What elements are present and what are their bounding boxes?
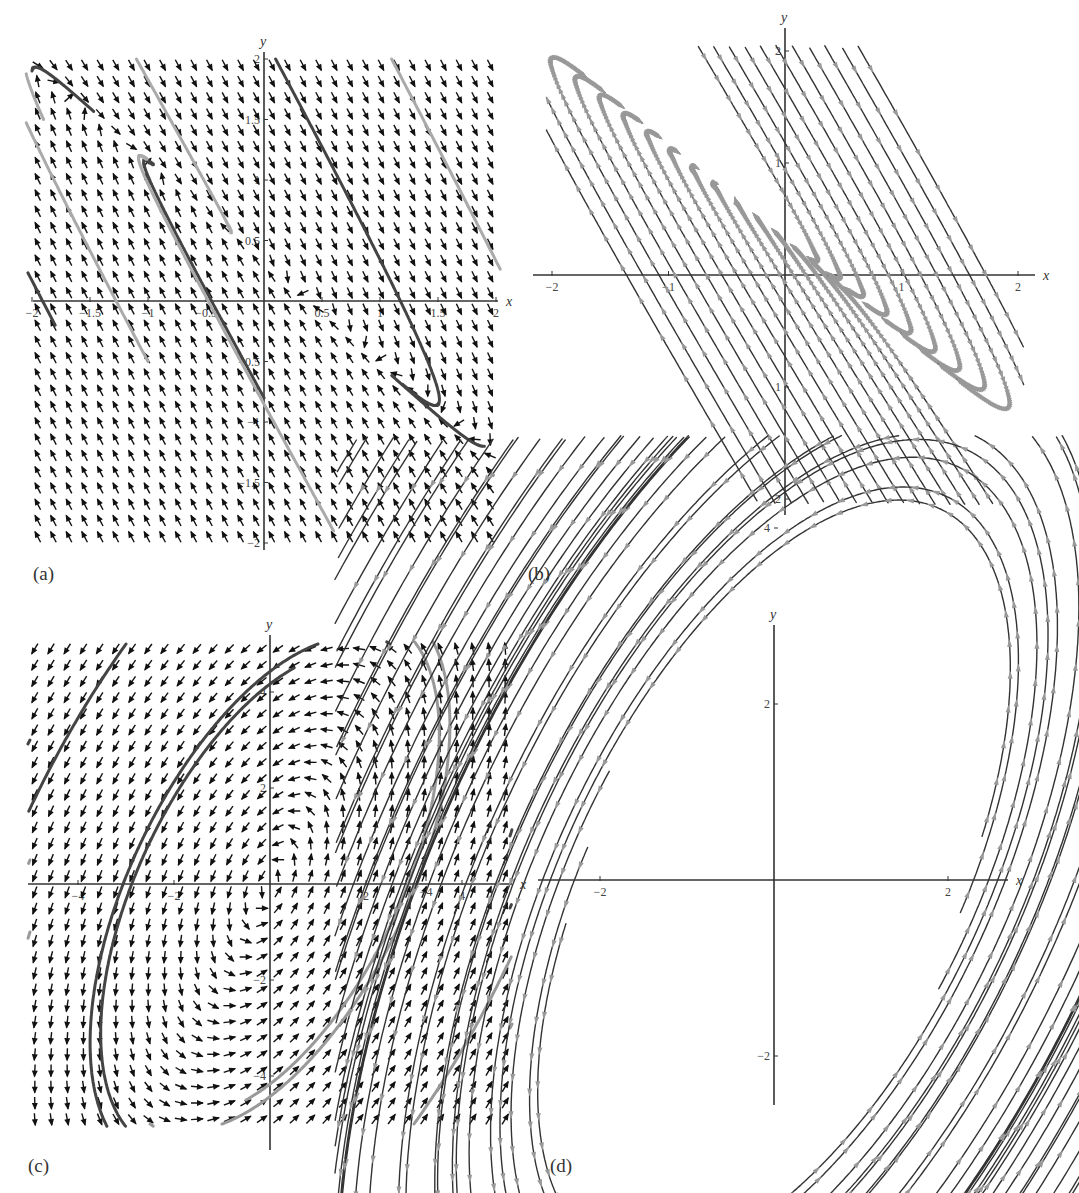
y-axis-label: y bbox=[264, 617, 273, 632]
x-tick-label: 2 bbox=[945, 885, 951, 899]
panel-b: −2−1122112xy (b) bbox=[520, 0, 1079, 590]
x-tick-label: −2 bbox=[546, 280, 559, 294]
panel-c: −4−22442−2−4xy (c) bbox=[0, 610, 530, 1193]
panel-a: −2−1.5−1−0.50.511.5221.510.5−0.5−1−1.5−2… bbox=[0, 0, 530, 590]
stream-plot-d: −4−22442−2−4xy bbox=[520, 600, 1079, 1193]
x-tick-label: 1 bbox=[899, 280, 905, 294]
y-axis-label: y bbox=[258, 34, 267, 49]
y-axis-label: y bbox=[768, 607, 777, 622]
x-tick-label: −2 bbox=[594, 885, 607, 899]
x-tick-label: 2 bbox=[493, 306, 499, 320]
y-axis-label: y bbox=[779, 10, 788, 25]
panel-d: −4−22442−2−4xy (d) bbox=[520, 600, 1079, 1193]
direction-field-plot-a: −2−1.5−1−0.50.511.5221.510.5−0.5−1−1.5−2… bbox=[0, 0, 530, 590]
x-tick-label: 2 bbox=[1015, 280, 1021, 294]
y-tick-label: 1 bbox=[775, 380, 781, 394]
axes: −2−1122112xy bbox=[533, 10, 1050, 515]
panel-label-d: (d) bbox=[550, 1155, 572, 1177]
panel-label-a: (a) bbox=[33, 563, 54, 585]
stream-plot-b: −2−1122112xy bbox=[520, 0, 1079, 590]
y-tick-label: 2 bbox=[764, 697, 770, 711]
x-axis-label: x bbox=[505, 294, 513, 309]
panel-label-c: (c) bbox=[28, 1155, 49, 1177]
direction-field-plot-c: −4−22442−2−4xy bbox=[0, 610, 530, 1193]
y-tick-label: −2 bbox=[757, 1049, 770, 1063]
x-axis-label: x bbox=[1015, 873, 1023, 888]
x-axis-label: x bbox=[1042, 268, 1050, 283]
